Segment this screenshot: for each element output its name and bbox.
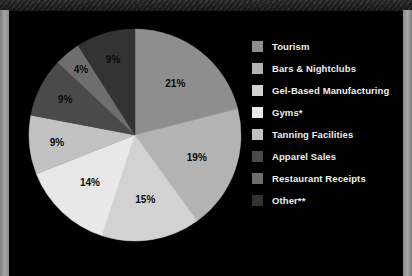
- legend-item-label: Other**: [272, 195, 305, 206]
- legend: TourismBars & NightclubsGel-Based Manufa…: [252, 35, 403, 211]
- legend-item-label: Apparel Sales: [272, 151, 336, 162]
- pie-slice-value-label: 9%: [106, 54, 121, 65]
- legend-item[interactable]: Other**: [252, 189, 403, 211]
- pie-chart: 21%19%15%14%9%9%4%9%: [28, 28, 242, 242]
- legend-item[interactable]: Tanning Facilities: [252, 123, 403, 145]
- legend-swatch-icon: [252, 107, 263, 118]
- legend-swatch-icon: [252, 151, 263, 162]
- legend-item-label: Restaurant Receipts: [272, 173, 366, 184]
- legend-item[interactable]: Bars & Nightclubs: [252, 57, 403, 79]
- page-margin-right: [403, 10, 412, 276]
- pie-slice-group: [29, 29, 241, 241]
- legend-item-label: Tourism: [272, 41, 309, 52]
- pie-slice-value-label: 4%: [74, 64, 89, 75]
- legend-item-label: Gel-Based Manufacturing: [272, 85, 389, 96]
- legend-item[interactable]: Gyms*: [252, 101, 403, 123]
- legend-item[interactable]: Gel-Based Manufacturing: [252, 79, 403, 101]
- legend-swatch-icon: [252, 173, 263, 184]
- pie-slice-value-label: 15%: [135, 194, 155, 205]
- pie-slice-value-label: 9%: [58, 94, 73, 105]
- page-root: 21%19%15%14%9%9%4%9% TourismBars & Night…: [0, 0, 412, 276]
- pie-chart-svg: 21%19%15%14%9%9%4%9%: [28, 28, 242, 242]
- legend-item-label: Gyms*: [272, 107, 303, 118]
- legend-item-label: Tanning Facilities: [272, 129, 353, 140]
- pie-slice-value-label: 21%: [165, 78, 185, 89]
- pie-slice-value-label: 19%: [187, 152, 207, 163]
- pie-slice-value-label: 14%: [80, 177, 100, 188]
- pie-slice-value-label: 9%: [50, 137, 65, 148]
- legend-item[interactable]: Restaurant Receipts: [252, 167, 403, 189]
- legend-swatch-icon: [252, 195, 263, 206]
- chart-canvas: 21%19%15%14%9%9%4%9% TourismBars & Night…: [9, 11, 403, 276]
- legend-item-label: Bars & Nightclubs: [272, 63, 356, 74]
- legend-swatch-icon: [252, 41, 263, 52]
- legend-item[interactable]: Tourism: [252, 35, 403, 57]
- legend-swatch-icon: [252, 129, 263, 140]
- legend-swatch-icon: [252, 85, 263, 96]
- page-margin-left: [0, 10, 9, 276]
- legend-item[interactable]: Apparel Sales: [252, 145, 403, 167]
- legend-swatch-icon: [252, 63, 263, 74]
